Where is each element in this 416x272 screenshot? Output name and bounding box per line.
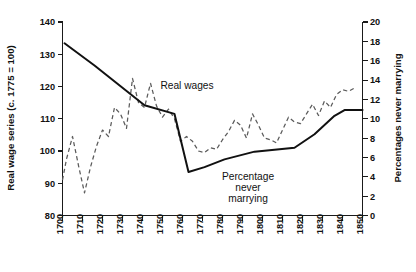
x-tick-label: 1780 bbox=[215, 214, 225, 234]
left-tick-label: 100 bbox=[40, 146, 55, 156]
percentage-annotation-line1: Percentage bbox=[222, 171, 274, 182]
right-tick-label: 10 bbox=[370, 114, 380, 124]
x-tick-label: 1760 bbox=[175, 214, 185, 234]
x-tick-label: 1730 bbox=[115, 214, 125, 234]
right-tick-label: 6 bbox=[370, 153, 375, 163]
right-tick-label: 4 bbox=[370, 172, 376, 182]
left-axis-title: Real wage series (c. 1775 = 100) bbox=[5, 45, 16, 190]
x-tick-label: 1750 bbox=[155, 214, 165, 234]
right-tick-label: 12 bbox=[370, 95, 380, 105]
x-tick-label: 1700 bbox=[55, 214, 65, 234]
x-tick-label: 1800 bbox=[255, 214, 265, 234]
right-tick-label: 20 bbox=[370, 17, 380, 27]
right-tick-label: 0 bbox=[370, 211, 375, 221]
right-tick-label: 16 bbox=[370, 56, 380, 66]
x-tick-label: 1840 bbox=[335, 214, 345, 234]
percentage-annotation-line3: marrying bbox=[228, 193, 268, 204]
right-tick-label: 18 bbox=[370, 37, 380, 47]
x-tick-label: 1790 bbox=[235, 214, 245, 234]
x-tick-label: 1810 bbox=[275, 214, 285, 234]
x-tick-label: 1770 bbox=[195, 214, 205, 234]
x-tick-label: 1830 bbox=[315, 214, 325, 234]
percentage-annotation-line2: never bbox=[235, 182, 261, 193]
left-tick-label: 110 bbox=[40, 114, 55, 124]
left-tick-label: 80 bbox=[45, 211, 55, 221]
right-tick-label: 14 bbox=[370, 75, 381, 85]
chart-figure: 8090100110120130140 02468101214161820 17… bbox=[0, 0, 416, 272]
x-tick-label: 1740 bbox=[135, 214, 145, 234]
left-tick-label: 120 bbox=[40, 82, 55, 92]
real-wages-vs-never-marrying-chart: 8090100110120130140 02468101214161820 17… bbox=[0, 0, 416, 272]
real-wages-annotation: Real wages bbox=[160, 80, 213, 91]
x-tick-label: 1720 bbox=[95, 214, 105, 234]
left-tick-label: 130 bbox=[40, 50, 55, 60]
left-tick-label: 90 bbox=[45, 179, 55, 189]
x-tick-label: 1820 bbox=[295, 214, 305, 234]
x-tick-label: 1710 bbox=[75, 214, 85, 234]
right-tick-label: 8 bbox=[370, 134, 375, 144]
x-tick-label: 1850 bbox=[355, 214, 365, 234]
left-tick-label: 140 bbox=[40, 17, 55, 27]
right-tick-label: 2 bbox=[370, 192, 375, 202]
right-axis-title: Percentages never marrying bbox=[392, 53, 403, 182]
